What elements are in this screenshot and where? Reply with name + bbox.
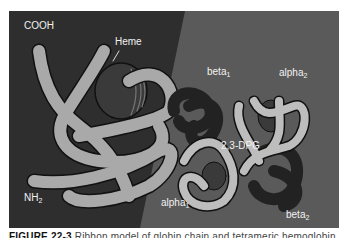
label-beta2: beta2 — [286, 210, 309, 221]
label-nh2-sub: 2 — [38, 197, 42, 204]
label-dpg: 2,3-DPG — [221, 141, 260, 151]
label-alpha1: alpha1 — [161, 198, 189, 209]
label-nh2-main: NH — [24, 192, 38, 203]
label-beta1-sub: 1 — [226, 71, 230, 78]
figure-frame: COOH Heme NH2 beta1 alpha2 2,3-DPG alpha… — [9, 11, 339, 228]
caption-prefix: FIGURE 22-3 — [9, 231, 72, 238]
label-alpha2-main: alpha — [279, 67, 303, 78]
caption-text: Ribbon model of globin chain and tetrame… — [72, 231, 336, 238]
label-heme: Heme — [115, 37, 142, 47]
label-beta1-main: beta — [207, 66, 226, 77]
label-beta1: beta1 — [207, 67, 230, 78]
label-alpha2: alpha2 — [279, 68, 307, 79]
label-alpha2-sub: 2 — [303, 72, 307, 79]
label-cooh: COOH — [24, 21, 54, 31]
label-beta2-main: beta — [286, 209, 305, 220]
label-alpha1-sub: 1 — [185, 202, 189, 209]
label-beta2-sub: 2 — [305, 214, 309, 221]
figure-caption: FIGURE 22-3 Ribbon model of globin chain… — [9, 231, 336, 238]
label-nh2: NH2 — [24, 193, 42, 204]
figure-illustration — [9, 11, 339, 228]
label-alpha1-main: alpha — [161, 197, 185, 208]
